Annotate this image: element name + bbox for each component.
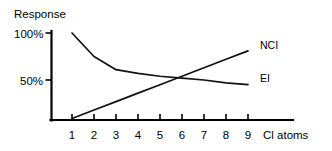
x-axis-title: Cl atoms (263, 129, 309, 141)
x-tick-label-6: 6 (179, 129, 185, 141)
x-tick-label-4: 4 (135, 129, 142, 141)
y-tick-label-100: 100% (14, 28, 43, 40)
x-tick-label-7: 7 (201, 129, 207, 141)
response-vs-cl-atoms-chart: Response 100% 50% 1 2 3 4 5 6 7 8 9 Cl a… (0, 0, 332, 151)
x-tick-label-1: 1 (69, 129, 75, 141)
y-axis-title: Response (14, 8, 66, 20)
chart-canvas: Response 100% 50% 1 2 3 4 5 6 7 8 9 Cl a… (0, 0, 332, 151)
series-line-ei (72, 33, 248, 85)
series-label-ei: EI (260, 72, 270, 84)
x-tick-label-8: 8 (223, 129, 229, 141)
series-label-nci: NCI (260, 39, 278, 51)
x-tick-label-5: 5 (157, 129, 163, 141)
y-tick-label-50: 50% (20, 75, 43, 87)
series-line-nci (72, 51, 248, 119)
x-tick-label-9: 9 (245, 129, 251, 141)
x-tick-label-2: 2 (91, 129, 97, 141)
x-tick-label-3: 3 (113, 129, 119, 141)
